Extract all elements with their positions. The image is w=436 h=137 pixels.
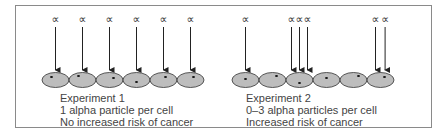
experiment2-result: Increased risk of cancer [246, 116, 363, 128]
cell [96, 73, 123, 88]
alpha-symbol-icon: ∝ [52, 13, 60, 26]
alpha-symbol-icon: ∝ [79, 13, 87, 26]
experiment2-title: Experiment 2 [246, 92, 311, 104]
alpha-symbol-icon: ∝ [133, 13, 141, 26]
alpha-particle-arrows: ∝∝∝∝∝∝∝∝∝∝∝∝ [52, 13, 389, 70]
cell [286, 73, 313, 88]
alpha-symbol-icon: ∝ [304, 13, 312, 26]
alpha-symbol-icon: ∝ [242, 13, 250, 26]
cell-nucleus [325, 77, 328, 79]
cell-nucleus [135, 81, 138, 83]
cell-nucleus [112, 77, 115, 79]
cell [42, 73, 69, 88]
cell [259, 73, 286, 88]
cell-nucleus [50, 76, 53, 78]
cell-nucleus [298, 82, 301, 84]
experiment1-result: No increased risk of cancer [60, 116, 193, 128]
cell-nucleus [244, 78, 247, 80]
cell [367, 73, 394, 88]
cell [340, 73, 367, 88]
alpha-symbol-icon: ∝ [106, 13, 114, 26]
cell-nucleus [77, 75, 80, 77]
alpha-symbol-icon: ∝ [381, 13, 389, 26]
alpha-symbol-icon: ∝ [160, 13, 168, 26]
alpha-symbol-icon: ∝ [372, 13, 380, 26]
cell [177, 73, 204, 88]
cell-nucleus [357, 75, 360, 77]
cell-nucleus [164, 76, 167, 78]
alpha-symbol-icon: ∝ [187, 13, 195, 26]
alpha-symbol-icon: ∝ [296, 13, 304, 26]
cell-nucleus [383, 76, 386, 78]
cell-nucleus [192, 76, 195, 78]
experiment1-title: Experiment 1 [60, 92, 125, 104]
cell-nucleus [275, 75, 278, 77]
cell [313, 73, 340, 88]
experiment2-description: 0–3 alpha particles per cell [246, 104, 377, 116]
cell [123, 73, 150, 88]
experiment1-description: 1 alpha particle per cell [60, 104, 173, 116]
cell [150, 73, 177, 88]
cell [69, 73, 96, 88]
alpha-symbol-icon: ∝ [288, 13, 296, 26]
cells [42, 73, 394, 88]
